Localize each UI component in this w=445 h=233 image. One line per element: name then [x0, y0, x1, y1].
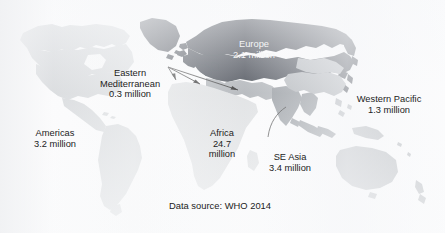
region-label-africa-name: Africa — [198, 128, 246, 139]
region-label-se-asia: SE Asia 3.4 million — [258, 152, 322, 173]
region-shape-se-asia — [272, 86, 336, 138]
region-label-eastern-mediterranean: Eastern Mediterranean 0.3 million — [92, 68, 168, 100]
region-label-africa: Africa 24.7 million — [198, 128, 246, 160]
region-label-americas-value: 3.2 million — [18, 139, 92, 150]
region-label-europe-name: Europe — [222, 39, 286, 50]
region-shape-western-pacific — [284, 58, 426, 204]
region-label-eastern-mediterranean-name-2: Mediterranean — [92, 79, 168, 90]
world-map-figure: Americas 3.2 million Eastern Mediterrane… — [0, 0, 445, 233]
region-label-europe-value: 2.1 million — [222, 50, 286, 61]
region-label-americas: Americas 3.2 million — [18, 128, 92, 149]
region-label-africa-value-1: 24.7 — [198, 139, 246, 150]
data-source-caption: Data source: WHO 2014 — [140, 200, 300, 211]
region-label-eastern-mediterranean-value: 0.3 million — [92, 89, 168, 100]
region-label-europe: Europe 2.1 million — [222, 39, 286, 60]
region-label-se-asia-name: SE Asia — [258, 152, 322, 163]
region-shape-americas — [20, 24, 142, 216]
world-map-graphic — [0, 0, 445, 233]
region-label-eastern-mediterranean-name-1: Eastern — [92, 68, 168, 79]
region-label-se-asia-value: 3.4 million — [258, 163, 322, 174]
region-label-western-pacific: Western Pacific 1.3 million — [344, 94, 434, 115]
region-label-western-pacific-name: Western Pacific — [344, 94, 434, 105]
region-label-western-pacific-value: 1.3 million — [344, 105, 434, 116]
region-label-africa-value-2: million — [198, 149, 246, 160]
region-label-americas-name: Americas — [18, 128, 92, 139]
region-shape-greenland — [140, 18, 181, 60]
